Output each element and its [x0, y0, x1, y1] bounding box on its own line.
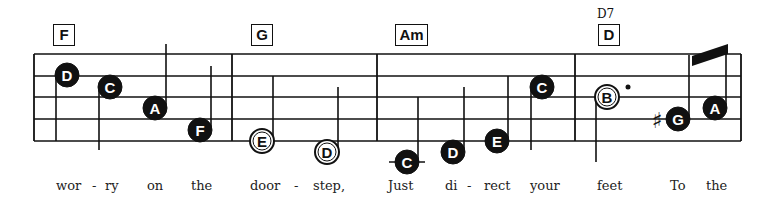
- note-letter: D: [448, 144, 459, 161]
- note-letter: C: [105, 79, 116, 96]
- chord-box-g: G: [251, 24, 273, 46]
- sheet-music: DCAFEDCDECBG♯A FGAmDD7 wor-ryonthedoor-s…: [0, 0, 765, 206]
- note-letter: C: [537, 79, 548, 96]
- note-letter: D: [62, 67, 73, 84]
- lyric-syllable: Just: [388, 178, 413, 193]
- note-letter: F: [195, 122, 204, 139]
- note-letter: C: [402, 154, 413, 171]
- lyric-syllable: di: [445, 178, 457, 193]
- note-letter: A: [710, 100, 721, 117]
- lyric-syllable: feet: [597, 178, 622, 193]
- lyric-hyphen: -: [467, 178, 471, 193]
- lyric-hyphen: -: [294, 178, 298, 193]
- note-beam: [692, 44, 728, 66]
- lyric-syllable: on: [147, 178, 163, 193]
- lyric-syllable: the: [706, 178, 727, 193]
- note-letter: A: [150, 100, 161, 117]
- lyric-syllable: step,: [313, 178, 345, 193]
- lyric-syllable: the: [191, 178, 212, 193]
- alternate-chord-label: D7: [597, 7, 614, 21]
- sharp-icon: ♯: [652, 108, 663, 133]
- note-letter: G: [672, 111, 684, 128]
- chord-box-d: D: [598, 24, 620, 46]
- lyric-hyphen: -: [92, 178, 96, 193]
- lyric-syllable: rect: [484, 178, 510, 193]
- dot-icon: [626, 85, 631, 90]
- note-letter: E: [492, 133, 502, 150]
- music-staff: DCAFEDCDECBG♯A: [0, 0, 765, 206]
- lyric-syllable: your: [530, 178, 560, 193]
- chord-box-f: F: [53, 24, 75, 46]
- lyric-syllable: wor: [56, 178, 81, 193]
- chord-box-am: Am: [395, 24, 428, 46]
- note-letter: B: [602, 89, 613, 106]
- lyric-syllable: door: [250, 178, 280, 193]
- note-letter: D: [322, 144, 333, 161]
- lyric-syllable: ry: [105, 178, 119, 193]
- lyric-syllable: To: [670, 178, 686, 193]
- note-letter: E: [257, 133, 267, 150]
